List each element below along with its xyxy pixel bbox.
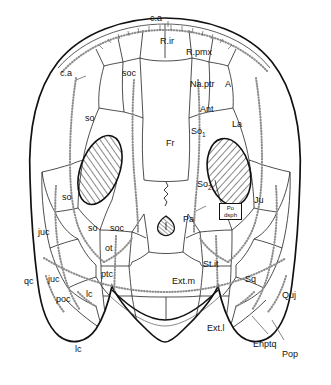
- label-juc-lower: juc: [48, 275, 60, 284]
- label-pop: Pop: [282, 350, 298, 359]
- label-r-ir: R.ir: [160, 37, 174, 46]
- label-dsph: dsph: [221, 212, 240, 219]
- label-ot: ot: [105, 244, 113, 253]
- label-ca-top: c.a: [150, 14, 162, 23]
- label-ca-left: c.a: [60, 69, 72, 78]
- label-na-ptr: Na.ptr: [190, 80, 215, 89]
- label-poc: poc: [56, 295, 71, 304]
- label-so1-sub: 1: [202, 131, 206, 138]
- label-fr: Fr: [166, 139, 175, 148]
- label-ju: Ju: [254, 196, 264, 205]
- label-pa: Pa: [183, 215, 194, 224]
- label-so-mid-left: so: [88, 224, 98, 233]
- label-sq: Sq: [245, 275, 256, 284]
- label-qc: qc: [24, 277, 34, 286]
- label-ext-m: Ext.m: [172, 277, 195, 286]
- label-ant: Ant: [200, 105, 214, 114]
- label-ptc: ptc: [101, 270, 113, 279]
- label-so-upper-left: so: [85, 114, 95, 123]
- label-la: La: [232, 120, 242, 129]
- label-lc-lower: lc: [75, 345, 82, 354]
- skull-drawing: [0, 0, 331, 385]
- label-so2-sub: 2: [208, 184, 212, 191]
- label-so1-main: So: [191, 126, 202, 136]
- label-lc-upper: lc: [86, 290, 93, 299]
- label-soc-top: soc: [122, 69, 136, 78]
- label-po-dsph: Po dsph: [219, 203, 242, 220]
- label-enptq: Enptq: [253, 340, 277, 349]
- label-quj: Quj: [282, 291, 296, 300]
- label-st-it: St.it: [203, 260, 219, 269]
- label-juc-upper: juc: [38, 228, 50, 237]
- label-ext-l: Ext.l: [207, 324, 225, 333]
- label-so-lower-left: so: [62, 193, 72, 202]
- label-a: A: [225, 80, 231, 89]
- skull-diagram: c.a c.a R.ir R.pmx soc Na.ptr A Ant La s…: [0, 0, 331, 385]
- label-r-pmx: R.pmx: [186, 48, 212, 57]
- label-so2: So2: [197, 180, 212, 191]
- label-so2-main: So: [197, 179, 208, 189]
- label-so1: So1: [191, 127, 206, 138]
- label-soc-mid-left: soc: [110, 224, 124, 233]
